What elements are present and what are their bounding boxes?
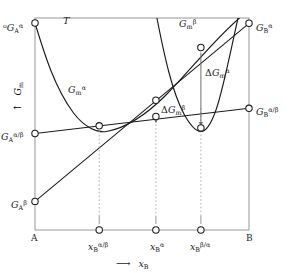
alpha-curve-label-symbol: G [68, 84, 76, 95]
marker-tangent-alpha [96, 123, 102, 129]
label-G-B-alpha: GBα [256, 18, 273, 34]
corner-label-B: B [246, 234, 253, 243]
alpha-curve-label-sup: α [82, 84, 86, 92]
label-G-B-alpha-sup: α [268, 22, 272, 30]
label-G-A-alphabeta-sup: α/β [13, 131, 23, 139]
label-G-A-beta: GAβ [11, 195, 27, 211]
x-axis-ticks [99, 216, 201, 224]
x-axis-label-group: ⟶ xB [116, 254, 149, 270]
marker-tangent-beta [198, 125, 204, 131]
label-G-B-alphabeta: GBα/β [256, 102, 278, 118]
y-axis-symbol: G [12, 88, 23, 96]
delta-gm-beta-label: ΔGmβ [161, 100, 185, 116]
label-G-B-alphabeta-symbol: G [256, 106, 264, 117]
label-G-A-alphabeta: GAα/β [1, 127, 23, 143]
y-axis-label-group: ↑ Gm [6, 52, 22, 112]
alpha-curve-label: Gmα [68, 80, 86, 96]
temperature-label: T [63, 16, 69, 26]
delta-gm-alpha-label: ΔGmα [205, 63, 230, 79]
y-axis-subscript: m [17, 82, 25, 88]
xtick-label-alphabeta: xBα/β [88, 237, 108, 253]
xtick-label-betaalpha: xBβ/α [190, 237, 210, 253]
label-G-B-alphabeta-sup: α/β [268, 106, 278, 114]
xtick-betaalpha-sup: β/α [200, 241, 210, 249]
label-G-A-beta-symbol: G [11, 199, 19, 210]
y-axis-arrow-icon: ↑ [12, 104, 23, 112]
beta-curve-label: Gmβ [179, 14, 196, 30]
marker-G-B-alpha [246, 20, 252, 26]
delta-gm-alpha-sup: α [226, 67, 230, 75]
marker-xaxis-betaalpha [198, 227, 204, 233]
label-G0-A-alpha-sup: α [19, 22, 23, 30]
label-G-A-beta-sup: β [23, 199, 27, 207]
marker-G-B-alphabeta [246, 105, 252, 111]
delta-gm-beta-sup: β [182, 104, 186, 112]
marker-xaxis-alphabeta [96, 227, 102, 233]
label-G-A-alphabeta-symbol: G [1, 131, 9, 142]
gibbs-energy-diagram: T ↑ Gm ⟶ xB A B Gmα Gmβ oGAα GBα GAα/β G… [0, 0, 291, 273]
marker-G-A-beta [32, 198, 38, 204]
marker-G0-A-alpha [32, 20, 38, 26]
x-axis-arrow-icon: ⟶ [116, 258, 130, 269]
marker-on-tangent-xB-alpha [153, 113, 159, 119]
x-axis-subscript: B [144, 263, 149, 271]
marker-on-line-xB-beta [198, 44, 204, 50]
delta-gm-alpha-delta: Δ [205, 67, 212, 78]
marker-on-curve-xB-alpha [153, 97, 159, 103]
label-G-B-alpha-symbol: G [256, 22, 264, 33]
beta-curve-label-symbol: G [179, 18, 187, 29]
label-G0-A-alpha: oGAα [3, 18, 23, 34]
xtick-label-alpha: xBα [150, 237, 164, 253]
corner-label-A: A [31, 234, 38, 243]
xtick-alphabeta-sup: α/β [98, 241, 108, 249]
marker-G-A-alphabeta [32, 130, 38, 136]
delta-gm-beta-delta: Δ [161, 104, 168, 115]
beta-curve-label-sup: β [193, 18, 197, 26]
xtick-alpha-sup: α [160, 241, 164, 249]
marker-xaxis-alpha [153, 227, 159, 233]
data-point-markers [32, 20, 252, 233]
